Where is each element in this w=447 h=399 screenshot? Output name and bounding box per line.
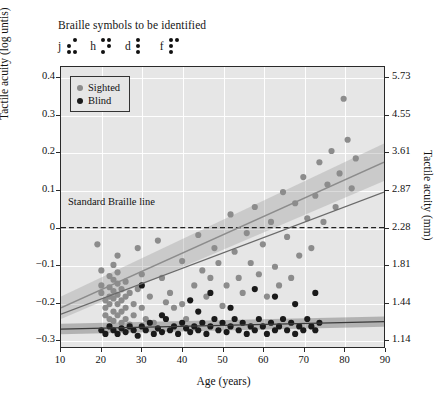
axis-tick-mark [60,348,61,352]
figure-header: Braille symbols to be identified jhdf [58,19,388,57]
data-point-sighted [336,170,342,176]
data-point-blind [135,333,141,339]
braille-dot [169,38,173,42]
data-point-sighted [349,185,355,191]
y-axis-right-tick-label: 2.28 [392,221,426,232]
braille-symbol-d: d [125,38,147,55]
data-point-blind [203,331,209,337]
braille-dot [169,50,173,54]
braille-symbol-j: j [58,38,77,55]
data-point-blind [264,331,270,337]
data-point-blind [195,327,201,333]
x-axis-tick-label: 60 [248,354,278,365]
data-point-sighted [167,290,173,296]
data-point-blind [292,301,298,307]
data-point-sighted [328,148,334,154]
data-point-blind [114,331,120,337]
axis-tick-mark [385,190,389,191]
axis-tick-mark [385,77,389,78]
data-point-blind [175,331,181,337]
y-axis-right-tick-label: 1.14 [392,333,426,344]
axis-tick-mark [385,348,386,352]
data-point-blind [159,329,165,335]
data-point-blind [199,320,205,326]
data-point-sighted [215,260,221,266]
data-point-blind [215,327,221,333]
data-point-blind [288,320,294,326]
data-point-sighted [244,230,250,236]
data-point-sighted [131,301,137,307]
data-point-blind [256,316,262,322]
braille-cell-icon [169,38,180,55]
regression-line-sighted-fit-darker [61,192,384,314]
braille-symbol-h: h [90,38,112,55]
data-point-blind [143,327,149,333]
data-point-blind [102,331,108,337]
standard-braille-line-label: Standard Braille line [68,196,155,207]
data-point-sighted [98,282,104,288]
axis-tick-mark [385,265,389,266]
y-axis-left-tick-label: 0.3 [20,108,55,119]
braille-dot [175,38,179,42]
legend-label: Blind [88,95,111,106]
braille-dot [169,44,173,48]
braille-tactile-acuity-figure: Braille symbols to be identified jhdf Si… [0,0,447,399]
data-point-blind [147,320,153,326]
braille-dot [73,38,77,42]
data-point-sighted [308,245,314,251]
data-point-blind [179,320,185,326]
braille-letter-label: j [58,40,61,52]
braille-dot [142,50,146,54]
x-axis-tick-label: 90 [370,354,400,365]
y-axis-right-tick-label: 1.81 [392,258,426,269]
braille-dot [101,44,105,48]
braille-dot [142,38,146,42]
data-point-blind [312,327,318,333]
data-point-sighted [223,282,229,288]
data-point-sighted [284,234,290,240]
axis-tick-mark [101,348,102,352]
chart-legend: SightedBlind [70,76,130,112]
x-axis-tick-label: 20 [86,354,116,365]
y-axis-left-tick-label: 0.1 [20,183,55,194]
data-point-sighted [179,301,185,307]
data-point-blind [300,327,306,333]
data-point-blind [280,316,286,322]
data-point-sighted [94,241,100,247]
data-point-sighted [131,312,137,318]
data-point-blind [187,297,193,303]
braille-dot [67,44,71,48]
data-point-blind [244,331,250,337]
braille-dot [73,44,77,48]
data-point-sighted [219,303,225,309]
data-point-sighted [110,262,116,268]
data-point-sighted [123,316,129,322]
data-point-blind [211,316,217,322]
y-axis-left-tick-label: −0.2 [20,296,55,307]
braille-symbol-row: jhdf [58,35,388,57]
data-point-sighted [268,219,274,225]
braille-letter-label: h [90,40,96,52]
data-point-blind [151,331,157,337]
y-axis-left-tick-label: 0.4 [20,70,55,81]
x-axis-tick-label: 70 [289,354,319,365]
braille-dot [67,38,71,42]
data-point-sighted [114,269,120,275]
data-point-sighted [276,282,282,288]
y-axis-right-tick-label: 2.87 [392,183,426,194]
axis-tick-mark [263,348,264,352]
data-point-sighted [296,252,302,258]
data-point-sighted [163,299,169,305]
data-point-sighted [300,174,306,180]
regression-line-sighted-fit [61,162,384,308]
legend-marker-icon [77,98,83,104]
data-point-sighted [240,290,246,296]
braille-letter-label: f [160,40,164,52]
data-point-blind [304,316,310,322]
axis-tick-mark [56,190,60,191]
y-axis-right-tick-label: 1.44 [392,296,426,307]
data-point-blind [159,312,165,318]
data-point-blind [227,305,233,311]
data-point-blind [252,286,258,292]
y-axis-left-tick-label: 0.2 [20,145,55,156]
